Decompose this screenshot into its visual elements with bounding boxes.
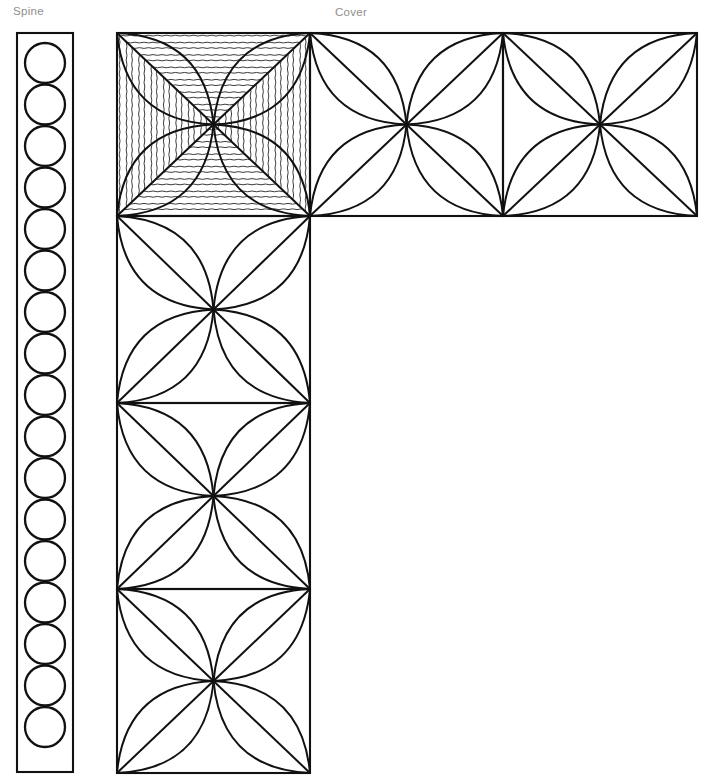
petal-br: [214, 681, 311, 773]
petal-centerline: [214, 403, 311, 496]
petal-centerline: [503, 125, 600, 217]
wave-line: [305, 33, 306, 231]
wave-line: [139, 33, 140, 231]
petal-bl: [503, 125, 600, 217]
petal-centerline: [117, 310, 214, 404]
petal-tr: [214, 216, 311, 310]
wave-line: [144, 33, 145, 231]
petal-centerline: [214, 496, 311, 589]
spine-hole-circle: [25, 500, 65, 540]
petal-tr: [407, 33, 504, 125]
petal-bl: [117, 310, 214, 404]
wave-line: [117, 203, 324, 204]
petal-centerline: [407, 33, 504, 125]
petal-tr: [214, 33, 311, 125]
cell-r0c0: [117, 33, 324, 231]
spine-hole-circle: [25, 583, 65, 623]
petal-tr: [214, 589, 311, 681]
spine-hole-circle: [25, 126, 65, 166]
petal-br: [214, 310, 311, 404]
wave-line: [287, 33, 288, 231]
wave-line: [218, 33, 219, 231]
wave-line: [156, 33, 157, 231]
spine-hole-circle: [25, 417, 65, 457]
petal-centerline: [117, 681, 214, 773]
spine-hole-circle: [25, 43, 65, 83]
wave-line: [126, 33, 127, 231]
diagram-canvas: Spine Cover: [0, 0, 702, 775]
petal-centerline: [214, 681, 311, 773]
spine-hole-circle: [25, 209, 65, 249]
spine-hole-circle: [25, 375, 65, 415]
petal-br: [600, 125, 697, 217]
wave-line: [218, 33, 219, 231]
cell-r3c0: [117, 589, 310, 773]
petal-tl: [503, 33, 600, 125]
petal-centerline: [214, 589, 311, 681]
spine-hole-circle: [25, 707, 65, 747]
petal-centerline: [214, 33, 311, 125]
wave-line: [181, 33, 182, 231]
petal-centerline: [600, 33, 697, 125]
spine-hole-circle: [25, 334, 65, 374]
wave-line: [169, 33, 170, 231]
petal-centerline: [117, 496, 214, 589]
petal-bl: [117, 496, 214, 589]
petal-br: [214, 125, 311, 217]
petal-br: [407, 125, 504, 217]
petal-centerline: [600, 125, 697, 217]
wave-line: [263, 33, 264, 231]
petal-bl: [310, 125, 407, 217]
petal-centerline: [117, 403, 214, 496]
petal-tl: [117, 403, 214, 496]
spine-hole-circle: [25, 292, 65, 332]
wave-line: [201, 33, 202, 231]
wave-line: [231, 33, 232, 231]
petal-centerline: [214, 125, 311, 217]
petal-tl: [117, 589, 214, 681]
petal-centerline: [310, 125, 407, 217]
petal-centerline: [117, 589, 214, 681]
cell-r2c0: [117, 403, 310, 589]
pattern-drawing: [0, 0, 702, 775]
petal-centerline: [503, 33, 600, 125]
petal-tl: [310, 33, 407, 125]
cell-r1c0: [117, 216, 310, 403]
petal-tr: [600, 33, 697, 125]
spine-hole-circle: [25, 541, 65, 581]
wave-line: [275, 33, 276, 231]
cover-group: [117, 33, 697, 773]
petal-centerline: [214, 216, 311, 310]
wave-line: [280, 33, 281, 231]
petal-centerline: [214, 310, 311, 404]
wave-line: [225, 33, 226, 231]
petal-br: [214, 496, 311, 589]
spine-hole-circle: [25, 666, 65, 706]
petal-tr: [214, 403, 311, 496]
wave-line: [151, 33, 152, 231]
petal-centerline: [310, 33, 407, 125]
wave-line: [194, 33, 195, 231]
wave-line: [243, 33, 244, 231]
spine-hole-circle: [25, 85, 65, 125]
petal-bl: [117, 681, 214, 773]
spine-hole-circle: [25, 168, 65, 208]
wave-line: [163, 33, 164, 231]
petal-centerline: [117, 216, 214, 310]
cell-r0c2: [503, 33, 697, 216]
petal-tl: [117, 216, 214, 310]
wave-line: [300, 33, 301, 231]
wave-line: [117, 42, 324, 43]
spine-hole-circle: [25, 251, 65, 291]
wave-line: [117, 209, 324, 210]
spine-hole-circle: [25, 458, 65, 498]
petal-centerline: [407, 125, 504, 217]
wave-line: [268, 33, 269, 231]
cell-r0c1: [310, 33, 503, 216]
spine-group: [17, 33, 73, 772]
spine-hole-circle: [25, 624, 65, 664]
